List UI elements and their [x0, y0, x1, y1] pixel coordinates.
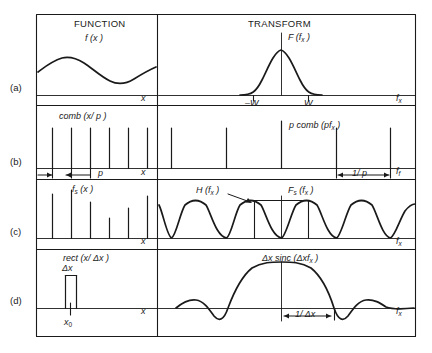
label-sinc: Δx sinc (Δxfx )	[262, 254, 318, 265]
label-fx: f (x )	[85, 34, 103, 43]
label-comb-left: comb (x/ p )	[59, 112, 107, 121]
label-fsx: fs (x )	[72, 185, 93, 196]
label-Ffx-base: F (f	[288, 32, 301, 42]
label-Ffx-tail: )	[305, 32, 311, 42]
label-p-comb-right: p comb (pfx )	[289, 121, 340, 132]
label-Fsfx: Fs (fx )	[288, 186, 314, 197]
label-spacing-1overp-b: 1/ p	[352, 169, 367, 178]
row-label-d: (d)	[10, 296, 22, 306]
curve-Ffx	[240, 50, 322, 95]
header-transform: TRANSFORM	[248, 19, 311, 29]
label-rect: rect (x/ Δx )	[63, 254, 109, 263]
header-function: FUNCTION	[74, 19, 125, 29]
label-Hfx-base: H (f	[196, 185, 211, 195]
label-width-1overdx: 1/ Δx	[295, 310, 315, 319]
label-sinc-tail: )	[313, 253, 319, 263]
period-arrow-b	[66, 169, 91, 179]
label-sinc-pre: Δx sinc (Δxf	[262, 253, 310, 263]
label-Fsfx-mid: (f	[297, 185, 305, 195]
label-x0: x0	[64, 318, 72, 329]
label-p-comb-pre: p comb (pf	[289, 120, 332, 130]
sampled-comb-left	[53, 190, 148, 239]
axis-label-d-left: x	[141, 307, 146, 316]
figure-canvas	[0, 0, 432, 353]
label-Hfx: H (fx )	[196, 186, 219, 197]
callout-arrow-H	[228, 194, 252, 203]
label-minus-W: –W	[245, 99, 259, 108]
label-period-p: p	[98, 169, 103, 178]
axis-b-right-sub: f	[399, 170, 401, 177]
label-p-comb-tail: )	[335, 120, 341, 130]
axis-label-b-left: x	[141, 168, 146, 177]
comb-right	[172, 121, 391, 169]
figure-root: FUNCTION TRANSFORM (a) (b) (c) (d) f (x …	[0, 0, 432, 353]
axis-label-b-right: ff	[396, 167, 400, 178]
comb-left	[53, 128, 148, 169]
axis-label-a-left: x	[141, 94, 146, 103]
curve-fx	[38, 57, 156, 83]
axis-label-d-right: fx	[396, 307, 402, 318]
axis-a-right-sub: x	[399, 97, 402, 104]
row-label-c: (c)	[10, 227, 21, 237]
label-delta-x: Δx	[62, 264, 73, 273]
label-x0-sub: 0	[69, 321, 73, 328]
axis-label-a-right: fx	[396, 94, 402, 105]
label-Fsfx-tail: )	[308, 185, 314, 195]
row-label-b: (b)	[10, 157, 22, 167]
label-plus-W: W	[304, 99, 313, 108]
label-Ffx: F (fx )	[288, 33, 310, 44]
axis-c-right-sub: x	[399, 240, 402, 247]
curve-Fsfx	[159, 201, 415, 239]
row-label-a: (a)	[10, 83, 22, 93]
label-Hfx-tail: )	[214, 185, 220, 195]
axis-d-right-sub: x	[399, 310, 402, 317]
axis-label-c-left: x	[141, 237, 146, 246]
label-fsx-tail: (x )	[78, 184, 94, 194]
axis-label-c-right: fx	[396, 237, 402, 248]
offset-arrow-b	[38, 169, 53, 179]
